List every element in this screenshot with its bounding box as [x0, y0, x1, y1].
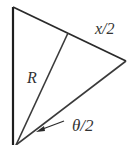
radius-label: R — [26, 69, 37, 86]
half-chord-label: x/2 — [94, 20, 115, 37]
geometry-diagram: x/2 R θ/2 — [0, 0, 129, 145]
half-angle-label: θ/2 — [72, 116, 94, 135]
